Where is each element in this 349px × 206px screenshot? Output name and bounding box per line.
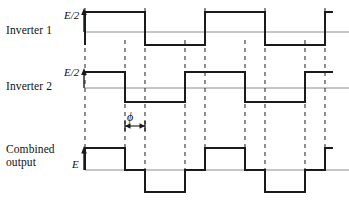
row-label-inverter-1: Inverter 1 (6, 24, 52, 37)
phase-arrowhead-right (140, 123, 146, 129)
phase-symbol-label: ϕ (127, 110, 133, 125)
amplitude-label-inverter-2: E/2 (64, 66, 79, 78)
row-label-inverter-2: Inverter 2 (6, 80, 52, 93)
amplitude-label-inverter-1: E/2 (64, 9, 79, 21)
waveform-inverter-1 (85, 12, 333, 45)
amplitude-label-combined-output: E (72, 158, 79, 170)
waveform-svg (0, 0, 349, 206)
row-label-combined-output: Combined output (6, 143, 55, 168)
waveform-traces (85, 12, 333, 192)
waveform-inverter-2 (85, 72, 333, 102)
waveform-figure: Inverter 1 Inverter 2 Combined output E/… (0, 0, 349, 206)
